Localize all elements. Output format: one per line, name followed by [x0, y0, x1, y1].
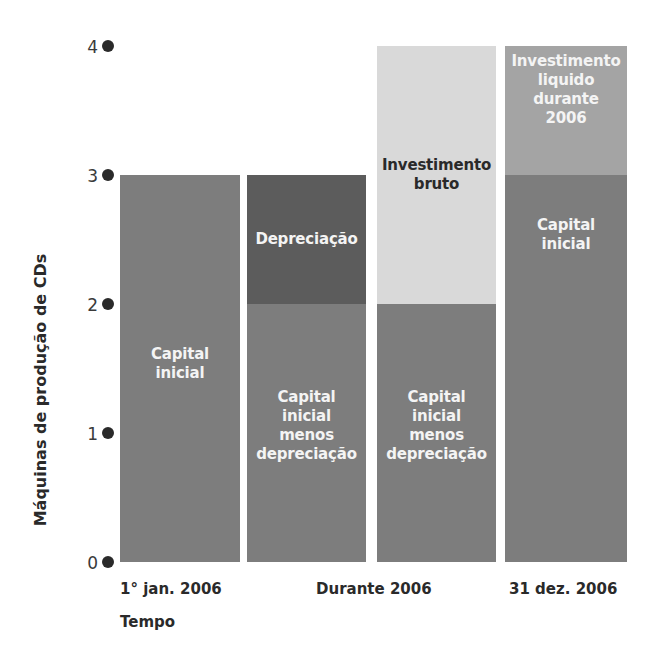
y-tick-label: 4: [87, 37, 98, 57]
y-tick-2: 2: [80, 304, 116, 318]
tick-dot-icon: [102, 169, 114, 181]
y-tick-3: 3: [80, 175, 116, 189]
segment-label: Capital inicial menos depreciação: [256, 388, 357, 464]
x-tick-label-jan-2006: 1° jan. 2006: [120, 580, 222, 598]
bar-durante-2006-depreciacao: Depreciação Capital inicial menos deprec…: [247, 175, 366, 562]
segment-capital-menos-depreciacao: Capital inicial menos depreciação: [377, 304, 496, 562]
bar-dez-2006: Investimento liquido durante 2006 Capita…: [505, 46, 627, 562]
segment-label: Capital inicial: [151, 345, 209, 383]
segment-label: Depreciação: [255, 230, 357, 249]
segment-label: Capital inicial: [537, 216, 595, 254]
segment-capital-inicial: Capital inicial: [120, 175, 240, 562]
y-tick-label: 2: [87, 295, 98, 315]
x-tick-label-durante-2006: Durante 2006: [316, 580, 432, 598]
y-tick-0: 0: [80, 562, 116, 576]
segment-capital-menos-depreciacao: Capital inicial menos depreciação: [247, 304, 366, 562]
segment-label: Investimento liquido durante 2006: [511, 52, 620, 128]
segment-depreciacao: Depreciação: [247, 175, 366, 304]
x-axis-label: Tempo: [120, 613, 175, 631]
y-tick-4: 4: [80, 46, 116, 60]
tick-dot-icon: [102, 427, 114, 439]
segment-label: Investimento bruto: [382, 156, 491, 194]
tick-dot-icon: [102, 556, 114, 568]
segment-investimento-liquido: Investimento liquido durante 2006: [505, 46, 627, 175]
stacked-bar-chart: 0 1 2 3 4 Máquinas de produção de CDs Ca…: [0, 0, 664, 648]
y-tick-1: 1: [80, 433, 116, 447]
segment-label: Capital inicial menos depreciação: [386, 388, 487, 464]
y-tick-label: 1: [87, 424, 98, 444]
segment-investimento-bruto: Investimento bruto: [377, 46, 496, 304]
y-axis-label: Máquinas de produção de CDs: [31, 254, 50, 527]
x-tick-label-dez-2006: 31 dez. 2006: [509, 580, 617, 598]
bar-durante-2006-investimento: Investimento bruto Capital inicial menos…: [377, 46, 496, 562]
segment-capital-inicial: Capital inicial: [505, 175, 627, 562]
y-tick-label: 3: [87, 166, 98, 186]
bar-jan-2006: Capital inicial: [120, 175, 240, 562]
y-tick-label: 0: [87, 553, 98, 573]
tick-dot-icon: [102, 40, 114, 52]
tick-dot-icon: [102, 298, 114, 310]
